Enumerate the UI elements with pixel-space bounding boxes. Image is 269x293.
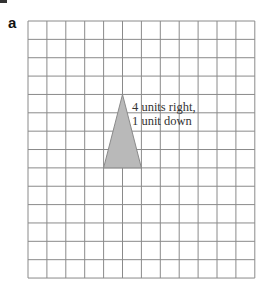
translation-annotation: 4 units right, 1 unit down <box>132 100 196 128</box>
grid-lines <box>28 21 255 278</box>
grid-diagram <box>0 0 269 293</box>
annotation-line-1: 4 units right, <box>132 100 196 114</box>
annotation-line-2: 1 unit down <box>132 114 196 128</box>
